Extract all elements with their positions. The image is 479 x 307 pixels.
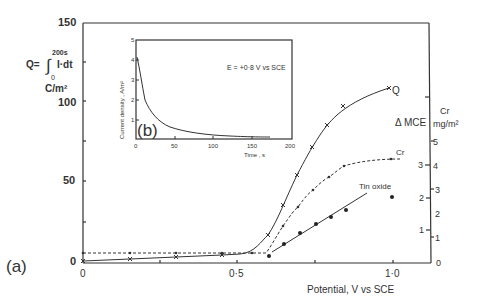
integral-sign: ∫ bbox=[45, 56, 52, 75]
inset-x-tick-0: 0 bbox=[134, 143, 138, 149]
inset-chart bbox=[136, 40, 292, 139]
cr-axis-unit: mg/m² bbox=[433, 119, 459, 129]
series-label-tin-oxide: Tin oxide bbox=[359, 182, 392, 191]
y-tick-50: 50 bbox=[63, 174, 75, 186]
inset-y-tick-3: 3 bbox=[131, 77, 135, 83]
panel-b-label: (b) bbox=[137, 121, 158, 140]
x-tick-0: 0 bbox=[80, 268, 86, 279]
cr-tick-5: 5 bbox=[433, 137, 438, 147]
series-label-cr: Cr bbox=[396, 148, 405, 157]
x-tick-1-0: 1·0 bbox=[385, 268, 400, 279]
series-label-q: Q bbox=[392, 85, 400, 96]
cr-tick-4: 4 bbox=[433, 161, 438, 171]
inset-x-tick-150: 150 bbox=[247, 143, 258, 149]
chart-canvas: 150 100 50 0 0 0·5 1·0 Potential, V vs S… bbox=[0, 0, 479, 307]
cr-axis-label: Cr bbox=[440, 106, 450, 116]
y-tick-150: 150 bbox=[58, 16, 76, 28]
inset-x-tick-100: 100 bbox=[208, 143, 219, 149]
integral-lower: 0 bbox=[51, 74, 55, 81]
integrand: I·dt bbox=[57, 59, 73, 70]
mce-tick-2: 2 bbox=[419, 193, 424, 203]
inset-y-tick-5: 5 bbox=[131, 37, 135, 43]
inset-y-tick-1: 1 bbox=[131, 117, 135, 123]
inset-x-tick-50: 50 bbox=[171, 143, 178, 149]
panel-a-label: (a) bbox=[6, 257, 27, 276]
inset-y-axis-label: Current density , A/m² bbox=[119, 81, 125, 139]
cr-tick-3: 3 bbox=[435, 185, 440, 195]
cr-tick-1: 1 bbox=[435, 233, 440, 243]
figure: 150 100 50 0 0 0·5 1·0 Potential, V vs S… bbox=[0, 0, 479, 307]
x-tick-0-5: 0·5 bbox=[229, 268, 244, 279]
mce-tick-1: 1 bbox=[419, 225, 424, 235]
inset-y-tick-4: 4 bbox=[131, 57, 135, 63]
inset-annotation: E = +0·8 V vs SCE bbox=[227, 64, 286, 71]
series-cr bbox=[82, 158, 400, 255]
inset-x-axis-label: Time , s bbox=[244, 152, 265, 158]
inset-x-tick-200: 200 bbox=[285, 143, 296, 149]
integral-upper: 200s bbox=[52, 49, 68, 56]
series-tin-oxide bbox=[267, 193, 394, 258]
inset-y-tick-2: 2 bbox=[131, 97, 135, 103]
x-axis-label: Potential, V vs SCE bbox=[307, 284, 395, 295]
mce-tick-3: 3 bbox=[418, 160, 423, 170]
cr-tick-0: 0 bbox=[436, 258, 441, 268]
q-unit: C/m² bbox=[45, 83, 68, 94]
y-tick-0: 0 bbox=[70, 255, 76, 267]
cr-tick-2: 2 bbox=[435, 209, 440, 219]
q-label: Q= bbox=[26, 59, 40, 70]
y-tick-100: 100 bbox=[58, 96, 76, 108]
mce-axis-label: Δ MCE bbox=[395, 117, 426, 128]
